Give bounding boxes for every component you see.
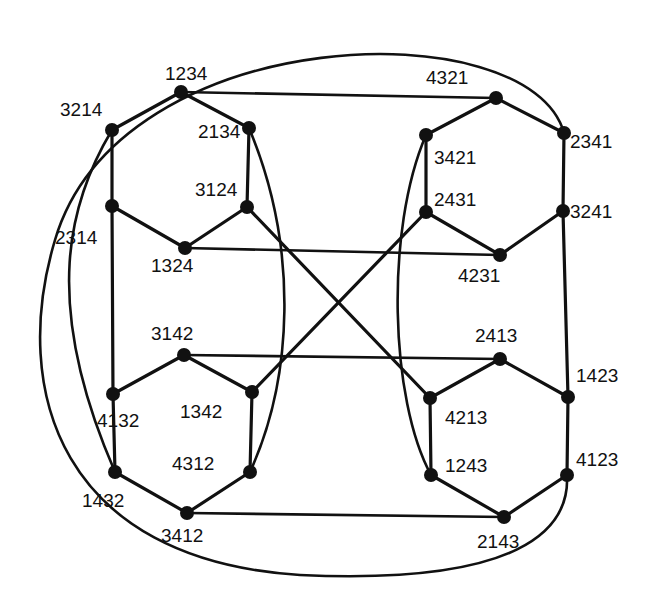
node-1432 [108, 465, 122, 479]
node-4231 [493, 248, 507, 262]
edge-3412-2143 [187, 513, 504, 517]
node-2341 [557, 126, 571, 140]
edge-4231-2431 [426, 212, 500, 255]
edge-4213-2413 [430, 359, 500, 398]
node-label-4132: 4132 [97, 410, 139, 431]
edge-2143-1243 [431, 475, 504, 517]
edge-3241-4231 [500, 211, 563, 255]
node-label-2314: 2314 [55, 227, 98, 248]
node-1342 [245, 385, 259, 399]
node-3412 [180, 506, 194, 520]
node-2314 [105, 199, 119, 213]
node-2143 [497, 510, 511, 524]
edge-1234-4321 [181, 92, 496, 98]
node-2413 [493, 352, 507, 366]
edge-2134-4312 [249, 128, 284, 472]
node-label-3241: 3241 [570, 201, 612, 222]
edge-1432-4132 [113, 394, 115, 472]
node-label-3412: 3412 [161, 525, 203, 546]
node-label-3421: 3421 [434, 147, 476, 168]
node-label-3124: 3124 [195, 179, 238, 200]
node-label-1342: 1342 [180, 401, 222, 422]
node-label-4321: 4321 [426, 67, 468, 88]
edge-3412-1432 [115, 472, 187, 513]
edge-2341-3241 [563, 133, 564, 211]
edge-2413-1423 [500, 359, 568, 397]
edge-3142-1342 [184, 355, 252, 392]
node-2134 [242, 121, 256, 135]
node-label-3142: 3142 [151, 323, 193, 344]
edge-3214-1234 [112, 92, 181, 130]
edge-3142-2413 [184, 355, 500, 359]
edge-1342-4312 [250, 392, 252, 472]
edge-3241-1423 [563, 211, 568, 397]
node-4132 [106, 387, 120, 401]
node-label-2134: 2134 [198, 121, 241, 142]
edge-2314-4132 [112, 206, 113, 394]
edge-4123-2143 [504, 475, 567, 517]
edge-2134-3124 [247, 128, 249, 207]
edge-4321-2341 [496, 98, 564, 133]
node-label-4312: 4312 [172, 453, 214, 474]
node-4321 [489, 91, 503, 105]
node-1243 [424, 468, 438, 482]
node-label-4123: 4123 [576, 449, 618, 470]
node-3124 [240, 200, 254, 214]
node-2431 [419, 205, 433, 219]
cayley-graph: 1234213431241324231432144321234132414231… [0, 0, 665, 610]
node-label-1234: 1234 [165, 63, 208, 84]
edge-4312-3412 [187, 472, 250, 513]
edge-3421-4321 [426, 98, 496, 135]
node-3241 [556, 204, 570, 218]
node-4123 [560, 468, 574, 482]
node-label-1432: 1432 [82, 490, 124, 511]
node-3214 [105, 123, 119, 137]
node-label-1243: 1243 [445, 455, 487, 476]
edge-3124-1324 [185, 207, 247, 248]
edge-4132-3142 [113, 355, 184, 394]
node-label-1423: 1423 [576, 365, 618, 386]
node-label-1324: 1324 [151, 255, 194, 276]
node-4312 [243, 465, 257, 479]
node-label-4231: 4231 [458, 265, 500, 286]
edge-1423-4123 [567, 397, 568, 475]
labels-layer: 1234213431241324231432144321234132414231… [55, 63, 618, 552]
node-label-2341: 2341 [570, 131, 612, 152]
node-label-3214: 3214 [60, 99, 103, 120]
edge-1243-4213 [430, 398, 431, 475]
edge-1324-2314 [112, 206, 185, 248]
node-3421 [419, 128, 433, 142]
node-label-2413: 2413 [475, 325, 517, 346]
node-4213 [423, 391, 437, 405]
node-1234 [174, 85, 188, 99]
node-1423 [561, 390, 575, 404]
node-1324 [178, 241, 192, 255]
node-label-2143: 2143 [477, 531, 519, 552]
node-3142 [177, 348, 191, 362]
node-label-4213: 4213 [445, 407, 487, 428]
edge-1324-4231 [185, 248, 500, 255]
node-label-2431: 2431 [434, 189, 476, 210]
